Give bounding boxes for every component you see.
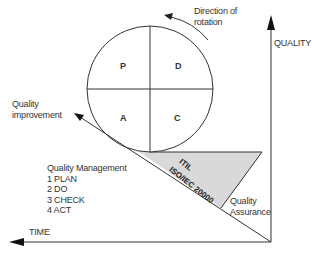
quadrant-do: D <box>175 61 182 71</box>
step-do: 2 DO <box>47 184 126 195</box>
quality-axis-arrow-icon <box>267 15 275 30</box>
quality-assurance-line1: Quality <box>230 196 271 207</box>
rotation-label: Direction of rotation <box>194 6 237 28</box>
quality-improvement-arrow-icon <box>74 113 84 121</box>
quality-improvement-line2: improvement <box>12 110 62 121</box>
quality-improvement-label: Quality improvement <box>12 99 62 121</box>
quality-management-title: Quality Management <box>47 163 126 174</box>
rotation-label-line2: rotation <box>194 17 237 28</box>
quality-management-list: Quality Management 1 PLAN 2 DO 3 CHECK 4… <box>47 163 126 216</box>
quadrant-act: A <box>120 113 127 123</box>
quadrant-check: C <box>174 113 181 123</box>
quality-assurance-label: Quality Assurance <box>230 196 271 218</box>
quality-improvement-line1: Quality <box>12 99 62 110</box>
time-axis-arrow-icon <box>9 238 24 246</box>
rotation-label-line1: Direction of <box>194 6 237 17</box>
quality-assurance-line2: Assurance <box>230 207 271 218</box>
rotation-arrow-icon <box>164 13 173 20</box>
step-plan: 1 PLAN <box>47 174 126 185</box>
quality-axis-label: QUALITY <box>274 38 311 49</box>
step-act: 4 ACT <box>47 205 126 216</box>
time-axis-label: TIME <box>29 227 50 238</box>
quadrant-plan: P <box>120 61 126 71</box>
step-check: 3 CHECK <box>47 195 126 206</box>
